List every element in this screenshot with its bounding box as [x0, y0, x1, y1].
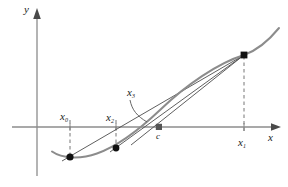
y-axis-arrowhead — [33, 8, 41, 19]
label-x3-subscript: 3 — [132, 93, 135, 99]
secant-x3-x1 — [131, 55, 244, 145]
point-x1-marker — [241, 52, 248, 59]
point-x2-marker — [113, 145, 120, 152]
label-x1-subscript: 1 — [243, 143, 246, 149]
label-root-c: c — [156, 131, 160, 141]
x-axis-label: x — [268, 131, 273, 143]
point-root-c-marker — [156, 124, 162, 130]
x3-leader-line — [130, 100, 147, 122]
y-axis-label: y — [24, 3, 29, 15]
label-x2: x2 — [106, 111, 114, 123]
label-x1: x1 — [238, 136, 246, 148]
secant-lines-group — [62, 55, 244, 161]
diagram-canvas — [0, 0, 288, 187]
label-x2-subscript: 2 — [111, 118, 114, 124]
secant-method-figure: y x x0 x2 x1 x3 c — [0, 0, 288, 187]
label-x0-subscript: 0 — [65, 117, 68, 123]
point-x0-marker — [66, 153, 73, 160]
label-x0: x0 — [60, 110, 68, 122]
secant-x2-x1 — [110, 55, 244, 152]
x-axis-arrowhead — [271, 123, 281, 131]
label-x3: x3 — [127, 86, 135, 98]
secant-x0-x1 — [62, 55, 244, 161]
